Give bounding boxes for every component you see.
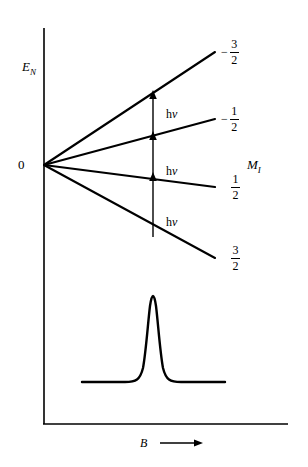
frequency-symbol: ν <box>172 107 177 121</box>
fraction-denominator: 2 <box>232 189 240 202</box>
energy-level-line-plus-three-halves <box>44 165 215 258</box>
fraction-numerator: 1 <box>230 105 238 118</box>
transition-label-middle: hν <box>166 165 177 177</box>
absorption-spectrum-curve <box>82 296 225 382</box>
fraction-stack: 3 2 <box>230 38 239 66</box>
origin-label: 0 <box>18 158 25 171</box>
level-label-sign: − <box>221 113 228 125</box>
fraction-stack: 3 2 <box>231 244 240 272</box>
fraction-stack: 1 2 <box>230 105 239 133</box>
energy-level-line-minus-one-half <box>44 119 215 165</box>
fraction-denominator: 2 <box>230 121 238 134</box>
diagram-canvas <box>0 0 308 467</box>
fraction-denominator: 2 <box>230 54 238 67</box>
level-label-plus-three-halves: 3 2 <box>229 244 240 272</box>
x-axis-label: B <box>140 437 147 449</box>
fraction-numerator: 1 <box>232 173 240 186</box>
x-axis-arrow-head <box>194 439 203 446</box>
y-axis-label-symbol: E <box>22 59 30 74</box>
fraction-denominator: 2 <box>232 260 240 273</box>
fraction-numerator: 3 <box>230 38 238 51</box>
level-label-minus-three-halves: − 3 2 <box>221 38 239 66</box>
level-label-sign: − <box>221 46 228 58</box>
transition-label-upper: hν <box>166 108 177 120</box>
energy-level-diagram-figure: EN 0 MI − 3 2 − 1 2 1 2 3 <box>0 0 308 467</box>
quantum-number-label: MI <box>247 158 261 175</box>
fraction-numerator: 3 <box>232 244 240 257</box>
frequency-symbol: ν <box>172 164 177 178</box>
level-label-minus-one-half: − 1 2 <box>221 105 239 133</box>
quantum-number-subscript: I <box>258 165 261 175</box>
frequency-symbol: ν <box>172 215 177 229</box>
quantum-number-symbol: M <box>247 157 258 172</box>
energy-level-line-minus-three-halves <box>44 52 215 165</box>
transition-label-lower: hν <box>166 216 177 228</box>
fraction-stack: 1 2 <box>231 173 240 201</box>
y-axis-label-subscript: N <box>30 67 36 77</box>
level-label-plus-one-half: 1 2 <box>229 173 240 201</box>
y-axis-label: EN <box>22 60 36 77</box>
energy-level-line-plus-one-half <box>44 165 215 187</box>
